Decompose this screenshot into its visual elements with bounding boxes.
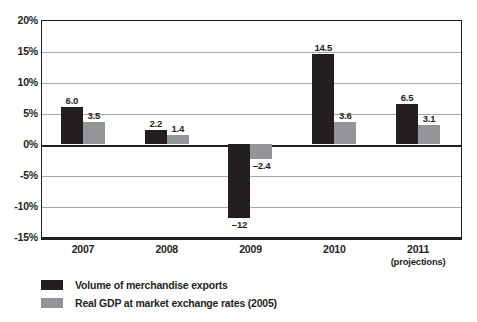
legend-label: Volume of merchandise exports <box>75 279 228 291</box>
x-axis-tick-sublabel: (projections) <box>363 256 473 267</box>
bar-group: –12–2.4 <box>209 20 293 237</box>
y-axis-tick-label: 15% <box>2 45 38 57</box>
legend-item: Volume of merchandise exports <box>41 276 441 294</box>
bar-value-label: 3.5 <box>74 110 114 121</box>
bar-2011-series0 <box>396 104 418 144</box>
y-axis-tick-label: 20% <box>2 14 38 26</box>
chart-figure: 20%15%10%5%0%-5%-10%-15% 6.03.52.21.4–12… <box>0 0 477 322</box>
bar-value-label: –12 <box>219 219 259 230</box>
bar-group: 2.21.4 <box>125 20 209 237</box>
bar-value-label: 6.0 <box>52 95 92 106</box>
x-axis: 20072008200920102011(projections) <box>41 243 462 277</box>
bar-2007-series1 <box>83 122 105 144</box>
bar-group: 14.53.6 <box>292 20 376 237</box>
bar-2009-series1 <box>250 144 272 159</box>
bar-group: 6.53.1 <box>376 20 460 237</box>
bar-value-label: 6.5 <box>387 92 427 103</box>
bar-2011-series1 <box>418 125 440 144</box>
bar-value-label: 14.5 <box>303 42 343 53</box>
y-axis-tick-label: -5% <box>2 169 38 181</box>
chart-legend: Volume of merchandise exportsReal GDP at… <box>41 276 441 312</box>
legend-swatch <box>41 280 63 290</box>
x-axis-tick-label: 2011(projections) <box>363 243 473 267</box>
bar-value-label: –2.4 <box>241 160 281 171</box>
y-axis-tick-label: 10% <box>2 76 38 88</box>
bar-2010-series1 <box>334 122 356 144</box>
y-axis-tick-label: 0% <box>2 138 38 150</box>
bar-value-label: 3.6 <box>325 110 365 121</box>
y-axis-tick-label: -15% <box>2 231 38 243</box>
bar-2010-series0 <box>312 54 334 144</box>
y-axis: 20%15%10%5%0%-5%-10%-15% <box>0 20 38 240</box>
bar-value-label: 1.4 <box>158 123 198 134</box>
bars-layer: 6.03.52.21.4–12–2.414.53.66.53.1 <box>41 20 462 237</box>
legend-swatch <box>41 298 63 308</box>
y-axis-tick-label: -10% <box>2 200 38 212</box>
bar-2009-series0 <box>228 144 250 218</box>
bar-2008-series1 <box>167 135 189 144</box>
y-axis-tick-label: 5% <box>2 107 38 119</box>
bar-group: 6.03.5 <box>41 20 125 237</box>
legend-label: Real GDP at market exchange rates (2005) <box>75 297 277 309</box>
bar-value-label: 3.1 <box>409 113 449 124</box>
legend-item: Real GDP at market exchange rates (2005) <box>41 294 441 312</box>
